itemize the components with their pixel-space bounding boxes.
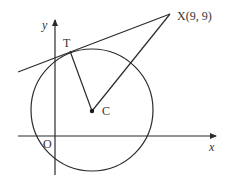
centre-label: C xyxy=(102,104,110,118)
origin-label: O xyxy=(43,137,52,151)
geometry-diagram: y x O T C X(9, 9) xyxy=(0,0,230,188)
external-point-label: X(9, 9) xyxy=(177,9,212,23)
centre-point xyxy=(90,109,94,113)
y-axis-label: y xyxy=(41,18,48,32)
radius-tc xyxy=(70,51,92,111)
x-axis-label: x xyxy=(208,140,215,154)
tangent-point-label: T xyxy=(63,36,71,50)
